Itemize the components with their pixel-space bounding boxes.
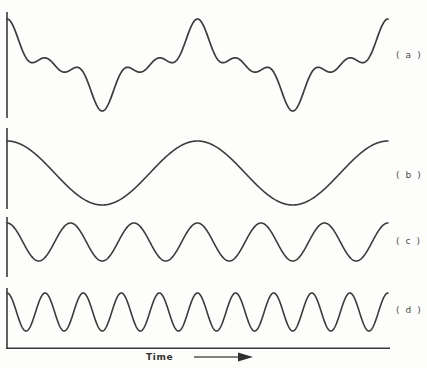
trace-label-b: ( b ) <box>396 170 422 180</box>
waveform-figure <box>0 0 427 368</box>
figure-background <box>0 0 427 368</box>
trace-label-d: ( d ) <box>396 305 422 315</box>
trace-label-c: ( c ) <box>396 236 422 246</box>
x-axis-label: Time <box>146 352 173 362</box>
trace-label-a: ( a ) <box>396 50 422 60</box>
